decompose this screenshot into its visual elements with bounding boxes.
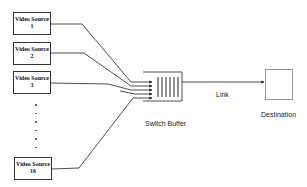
ellipsis-dots [35,104,37,155]
source-number: 16 [15,168,51,175]
source-label: Video Source [14,46,50,53]
line-extra [120,91,152,94]
source-label: Video Source [14,75,50,82]
switch-buffer [143,72,182,101]
video-source-2: Video Source 2 [13,42,51,65]
video-source-16: Video Source 16 [14,157,52,180]
source-label: Video Source [14,16,50,23]
line-source-16 [52,98,152,169]
source-label: Video Source [15,161,51,168]
source-number: 3 [14,82,50,89]
video-source-3: Video Source 3 [13,71,51,94]
video-source-1: Video Source 1 [13,12,51,35]
line-source-3 [51,83,152,90]
source-number: 1 [14,23,50,30]
destination-box [265,69,293,100]
source-number: 2 [14,53,50,60]
line-source-2 [51,53,152,86]
switch-buffer-label: Switch Buffer [145,120,186,127]
destination-label: Destination [261,111,296,118]
link-label: Link [216,91,229,98]
